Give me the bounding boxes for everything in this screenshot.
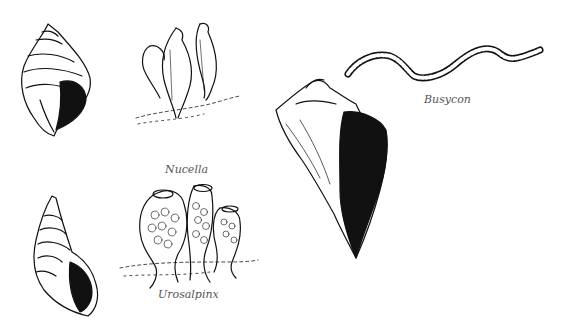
busycon-shell-drawing (276, 79, 387, 258)
urosalpinx-egg-capsules-drawing (120, 185, 258, 289)
caption-nucella: Nucella (165, 163, 208, 176)
caption-busycon: Busycon (424, 93, 471, 106)
nucella-egg-capsules-drawing (136, 23, 240, 124)
drawing-canvas (0, 0, 565, 328)
urosalpinx-shell-drawing (34, 196, 98, 316)
nucella-shell-drawing (22, 24, 91, 136)
busycon-egg-string-drawing (348, 49, 540, 78)
caption-urosalpinx: Urosalpinx (158, 288, 219, 301)
gastropod-egg-capsule-illustration: Nucella Urosalpinx Busycon (0, 0, 565, 328)
